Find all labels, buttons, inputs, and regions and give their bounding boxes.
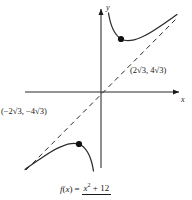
point-marker-local-minimum	[118, 36, 124, 42]
point-label-upper: (2√3, 4√3)	[130, 66, 166, 75]
function-formula: f(x)=x2 + 12	[60, 184, 111, 196]
formula-equals: =	[73, 184, 82, 194]
formula-numerator-rest: + 12	[93, 183, 109, 193]
math-figure: y x (2√3, 4√3) (−2√3, −4√3) f(x)=x2 + 12	[0, 0, 192, 200]
formula-denominator	[82, 195, 112, 196]
oblique-asymptote-dashed-line	[26, 17, 178, 170]
curve-branch-upper-right	[109, 13, 178, 41]
y-axis-label: y	[106, 4, 110, 12]
formula-fraction: x2 + 12	[82, 184, 112, 196]
x-axis-label: x	[181, 96, 185, 104]
point-marker-local-maximum	[76, 141, 82, 147]
formula-numerator-exponent: 2	[88, 182, 91, 188]
point-label-lower: (−2√3, −4√3)	[1, 107, 47, 116]
curve-branch-lower-left	[25, 143, 94, 171]
formula-numerator: x2 + 12	[82, 184, 112, 195]
graph-canvas	[0, 0, 192, 200]
